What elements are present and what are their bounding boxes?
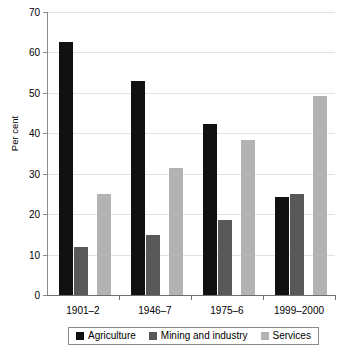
gridline	[48, 52, 335, 53]
y-tick-mark	[43, 133, 47, 134]
x-group-label: 1975–6	[210, 305, 243, 316]
y-tick-mark	[43, 93, 47, 94]
legend-swatch-icon	[76, 332, 84, 340]
y-tick-label: 0	[34, 290, 40, 301]
bar-services-3	[313, 96, 327, 295]
y-axis-line	[47, 12, 48, 295]
x-tick-mark	[335, 295, 336, 300]
bar-agriculture-3	[275, 197, 289, 295]
x-group-label: 1901–2	[66, 305, 99, 316]
y-tick-mark	[43, 52, 47, 53]
x-tick-mark	[119, 295, 120, 300]
gridline	[48, 12, 335, 13]
bar-services-0	[97, 194, 111, 295]
y-tick-label: 30	[29, 168, 40, 179]
bar-agriculture-0	[59, 42, 73, 295]
x-tick-mark	[263, 295, 264, 300]
y-tick-label: 50	[29, 87, 40, 98]
y-tick-mark	[43, 214, 47, 215]
bar-mining-and-industry-3	[290, 194, 304, 295]
y-tick-label: 40	[29, 128, 40, 139]
bar-agriculture-1	[131, 81, 145, 295]
legend: AgricultureMining and industryServices	[68, 327, 319, 345]
bar-mining-and-industry-1	[146, 235, 160, 295]
x-tick-mark	[191, 295, 192, 300]
y-axis-title: Per cent	[9, 94, 20, 174]
y-tick-label: 70	[29, 7, 40, 18]
bar-services-2	[241, 140, 255, 295]
legend-item-agriculture: Agriculture	[76, 331, 136, 341]
bar-agriculture-2	[203, 124, 217, 295]
y-tick-mark	[43, 12, 47, 13]
legend-swatch-icon	[261, 332, 269, 340]
bar-mining-and-industry-2	[218, 220, 232, 295]
legend-item-mining-and-industry: Mining and industry	[149, 331, 248, 341]
bar-mining-and-industry-0	[74, 247, 88, 296]
y-tick-label: 60	[29, 47, 40, 58]
bar-chart: Per cent 010203040506070 1901–21946–7197…	[0, 0, 344, 353]
y-tick-mark	[43, 255, 47, 256]
legend-label: Mining and industry	[161, 331, 248, 341]
legend-label: Services	[273, 331, 311, 341]
y-tick-label: 10	[29, 249, 40, 260]
legend-item-services: Services	[261, 331, 311, 341]
x-group-label: 1999–2000	[274, 305, 324, 316]
y-tick-label: 20	[29, 209, 40, 220]
legend-label: Agriculture	[88, 331, 136, 341]
gridline	[48, 133, 335, 134]
gridline	[48, 93, 335, 94]
y-tick-mark	[43, 295, 47, 296]
y-tick-mark	[43, 174, 47, 175]
legend-swatch-icon	[149, 332, 157, 340]
plot-area: 010203040506070 1901–21946–71975–61999–2…	[47, 12, 335, 295]
gridline	[48, 174, 335, 175]
bar-services-1	[169, 168, 183, 295]
x-group-label: 1946–7	[138, 305, 171, 316]
